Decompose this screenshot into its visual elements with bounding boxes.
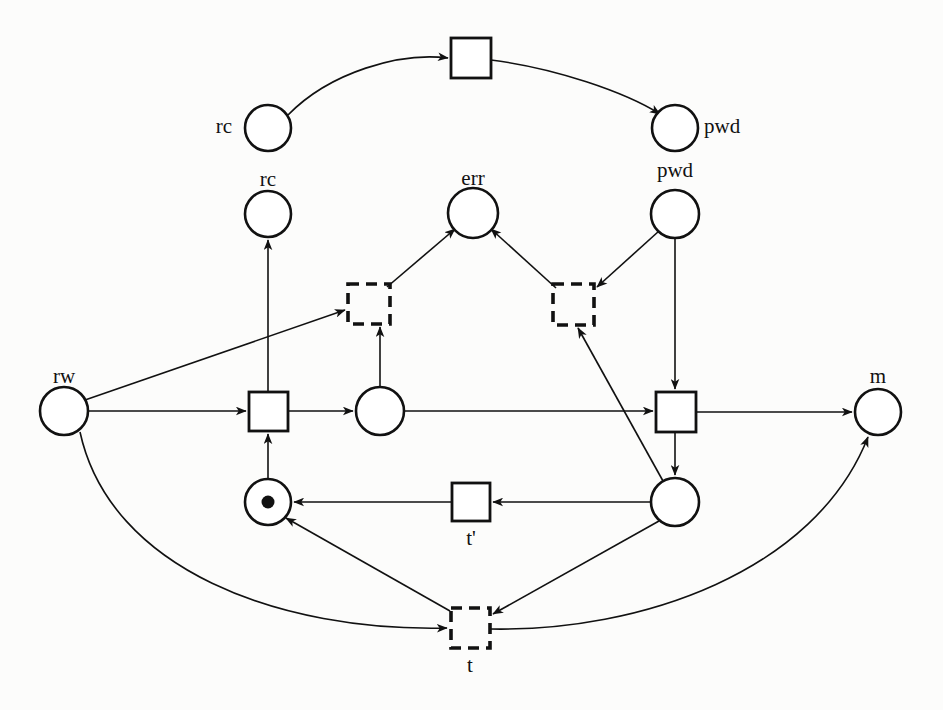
place-m[interactable] bbox=[855, 389, 901, 435]
place-err[interactable] bbox=[448, 188, 498, 238]
label-rw: rw bbox=[53, 364, 76, 388]
place-right[interactable] bbox=[651, 478, 699, 526]
place-rw[interactable] bbox=[40, 387, 88, 435]
petri-net-diagram: rc pwd rc err pwd rw m t' t bbox=[0, 0, 943, 710]
label-rc-top: rc bbox=[216, 114, 232, 138]
label-err: err bbox=[461, 166, 484, 190]
place-rc-mid[interactable] bbox=[245, 191, 291, 237]
diagram-background bbox=[0, 0, 943, 710]
label-pwd-mid: pwd bbox=[657, 158, 694, 182]
petri-net-canvas: rc pwd rc err pwd rw m t' t bbox=[0, 0, 943, 710]
label-t-prime: t' bbox=[466, 526, 476, 550]
label-rc-mid: rc bbox=[260, 167, 276, 191]
place-rc-top[interactable] bbox=[245, 105, 291, 151]
label-pwd-top: pwd bbox=[704, 114, 741, 138]
label-m: m bbox=[870, 364, 886, 388]
transition-t-prime[interactable] bbox=[452, 483, 490, 521]
place-pwd-top[interactable] bbox=[652, 105, 698, 151]
place-pwd-mid[interactable] bbox=[651, 190, 699, 238]
transition-top[interactable] bbox=[451, 38, 491, 78]
transition-left[interactable] bbox=[249, 392, 288, 431]
token-marking bbox=[262, 496, 275, 509]
place-mid[interactable] bbox=[356, 387, 404, 435]
transition-right[interactable] bbox=[656, 392, 696, 432]
label-t: t bbox=[467, 653, 473, 677]
